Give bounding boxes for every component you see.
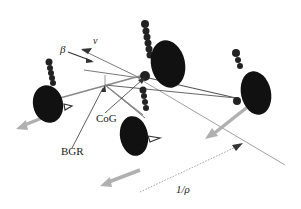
bracket-front-center — [148, 136, 160, 142]
velocity-label: v — [93, 36, 97, 46]
motion-arrowhead-rl — [16, 120, 28, 130]
spring-right — [232, 49, 243, 69]
hub-right — [233, 97, 241, 105]
beta-arrow-head — [86, 58, 94, 63]
spring-rear-left — [46, 59, 57, 87]
cog-label: CoG — [96, 113, 117, 124]
motion-arrowhead-fl — [100, 177, 112, 187]
spring-center — [141, 20, 154, 59]
motion-arrow-fr — [212, 105, 250, 135]
velocity-arrow-head — [81, 48, 92, 54]
cog-pointer — [105, 80, 142, 113]
wheel-center-top — [146, 37, 189, 91]
vehicle-diagram — [0, 0, 301, 209]
radius-label: 1/ρ — [176, 184, 190, 195]
link-front-right — [140, 76, 236, 98]
motion-arrow-fl — [106, 170, 140, 183]
link-rear-right — [105, 85, 143, 115]
radius-arrow-head — [232, 143, 243, 151]
bracket-rear-left — [64, 104, 72, 110]
spring-front-center — [140, 87, 150, 112]
bgr-label: BGR — [61, 146, 84, 157]
wheel-front-center — [117, 114, 152, 158]
beta-label: β — [60, 44, 65, 55]
